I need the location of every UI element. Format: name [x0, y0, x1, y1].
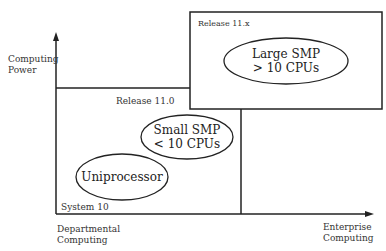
small-smp-line2: < 10 CPUs — [154, 137, 220, 151]
y-axis-label: ComputingPower — [8, 54, 58, 76]
x-axis-right-label-line2: Computing — [323, 233, 373, 243]
large-smp-line1: Large SMP — [252, 47, 320, 61]
release-11-x-label: Release 11.x — [198, 18, 249, 29]
y-axis-arrow-icon — [53, 32, 59, 41]
release-11-0-label: Release 11.0 — [116, 96, 175, 107]
x-axis-left-label: DepartmentalComputing — [57, 224, 120, 246]
x-axis-right-label-line1: Enterprise — [323, 222, 372, 232]
system-10-label: System 10 — [61, 202, 109, 213]
uniprocessor-text: Uniprocessor — [76, 170, 168, 184]
small-smp-line1: Small SMP — [154, 123, 221, 137]
x-axis-left-label-line1: Departmental — [57, 224, 120, 234]
uniprocessor-line1: Uniprocessor — [81, 170, 162, 184]
x-axis-right-label: EnterpriseComputing — [323, 222, 373, 244]
y-axis-label-line1: Computing — [8, 54, 58, 64]
small-smp-text: Small SMP< 10 CPUs — [141, 123, 233, 151]
large-smp-line2: > 10 CPUs — [253, 61, 319, 75]
x-axis-left-label-line2: Computing — [57, 235, 107, 245]
large-smp-text: Large SMP> 10 CPUs — [224, 47, 348, 75]
x-axis-arrow-icon — [365, 211, 374, 217]
y-axis-label-line2: Power — [8, 65, 36, 75]
